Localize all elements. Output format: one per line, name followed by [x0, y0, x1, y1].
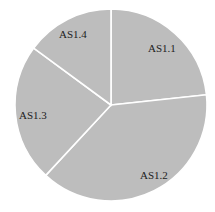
label-as1-1: AS1.1: [148, 42, 176, 54]
label-as1-4: AS1.4: [59, 28, 87, 40]
label-as1-3: AS1.3: [19, 109, 47, 121]
slice-as1-1: [111, 9, 206, 105]
label-as1-2: AS1.2: [140, 169, 168, 181]
pie-chart: AS1.1 AS1.2 AS1.3 AS1.4: [0, 0, 215, 212]
